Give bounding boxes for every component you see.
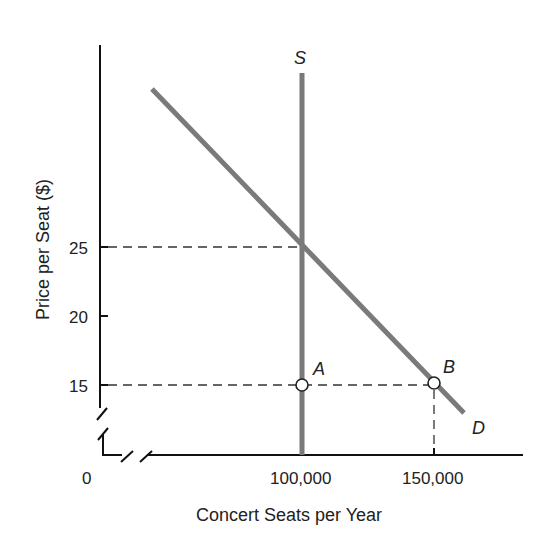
- y-tick-label-20: 20: [69, 308, 88, 327]
- point-b-label: B: [443, 357, 455, 377]
- origin-corner: [103, 434, 122, 455]
- supply-demand-chart: S D A B 25 20 15 0 100,000 150,000 Conce…: [0, 0, 547, 560]
- x-tick-label-100k: 100,000: [270, 469, 331, 488]
- y-axis-break-1: [97, 408, 107, 420]
- y-tick-label-15: 15: [69, 377, 88, 396]
- demand-label: D: [472, 418, 485, 438]
- x-tick-label-150k: 150,000: [402, 469, 463, 488]
- supply-label: S: [294, 48, 306, 68]
- demand-curve: [152, 89, 464, 413]
- point-a-label: A: [312, 359, 325, 379]
- x-axis-title: Concert Seats per Year: [196, 505, 382, 525]
- y-tick-label-25: 25: [69, 239, 88, 258]
- y-axis-title: Price per Seat ($): [33, 179, 53, 320]
- x-axis-break-2: [140, 451, 152, 462]
- x-tick-label-origin: 0: [82, 469, 91, 488]
- point-a-marker: [296, 379, 308, 391]
- point-b-marker: [428, 377, 440, 389]
- x-axis-break-1: [121, 451, 133, 462]
